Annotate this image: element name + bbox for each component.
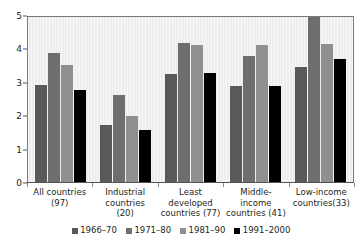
y-axis-tick-label: 1 <box>16 145 22 154</box>
x-axis-category-label-line: countries (41) <box>224 208 287 219</box>
legend-item[interactable]: 1991–2000 <box>234 226 290 235</box>
legend-swatch-icon <box>126 228 132 234</box>
bar <box>230 86 242 182</box>
bar <box>100 125 112 182</box>
x-axis-category-label: Low-incomecountries(33) <box>289 187 354 231</box>
bar <box>178 43 190 182</box>
legend-item-label: 1966–70 <box>80 226 117 235</box>
x-axis-category-label-line: Low-income <box>290 187 353 198</box>
x-axis-category-label-line: (20) <box>93 208 156 219</box>
x-axis-category-label-line: (97) <box>28 198 91 209</box>
plot-area <box>27 16 354 183</box>
bar-group <box>28 17 93 182</box>
bar <box>269 86 281 182</box>
x-axis-category-label-line: countries(33) <box>290 198 353 209</box>
bar-group <box>288 17 353 182</box>
y-axis-tick-label: 0 <box>16 179 22 188</box>
y-axis-tick-label: 2 <box>16 112 22 121</box>
bar <box>139 130 151 182</box>
y-axis-labels: 012345 <box>0 16 22 183</box>
bar <box>191 45 203 182</box>
bar <box>321 44 333 182</box>
x-axis-category-label-line: countries (77) <box>159 208 222 219</box>
bar <box>165 74 177 182</box>
legend-item[interactable]: 1966–70 <box>72 226 117 235</box>
legend-item[interactable]: 1981–90 <box>180 226 225 235</box>
legend-item[interactable]: 1971–80 <box>126 226 171 235</box>
x-axis-category-label-line: developed <box>159 198 222 209</box>
y-axis-tick-label: 5 <box>16 12 22 21</box>
bar <box>126 116 138 182</box>
y-axis-tick-label: 3 <box>16 78 22 87</box>
x-axis-category-label-line: countries <box>93 198 156 209</box>
bar <box>61 65 73 182</box>
x-axis-tick-mark <box>354 183 355 187</box>
x-axis-category-label-line: Least <box>159 187 222 198</box>
legend-swatch-icon <box>180 228 186 234</box>
legend-swatch-icon <box>72 228 78 234</box>
y-axis-tick-label: 4 <box>16 45 22 54</box>
bar-group <box>93 17 158 182</box>
bar <box>113 95 125 183</box>
bar <box>204 73 216 182</box>
legend-item-label: 1971–80 <box>134 226 171 235</box>
legend-item-label: 1981–90 <box>189 226 226 235</box>
legend-item-label: 1991–2000 <box>243 226 291 235</box>
x-axis-category-label-line: Industrial <box>93 187 156 198</box>
bar <box>48 53 60 182</box>
bar-group <box>223 17 288 182</box>
legend-swatch-icon <box>234 228 240 234</box>
bar <box>295 67 307 182</box>
x-axis-category-label-line: income <box>224 198 287 209</box>
bar <box>243 56 255 182</box>
bar <box>35 85 47 182</box>
chart-legend: 1966–701971–801981–901991–2000 <box>0 226 362 235</box>
bar <box>334 59 346 182</box>
bar <box>74 90 86 182</box>
bars-layer <box>28 17 353 182</box>
x-axis-category-label-line: Middle- <box>224 187 287 198</box>
x-axis-category-label-line: All countries <box>28 187 91 198</box>
bar <box>308 16 320 182</box>
bar-group <box>158 17 223 182</box>
grouped-bar-chart: 012345 All countries(97)Industrialcountr… <box>0 0 362 240</box>
bar <box>256 45 268 182</box>
